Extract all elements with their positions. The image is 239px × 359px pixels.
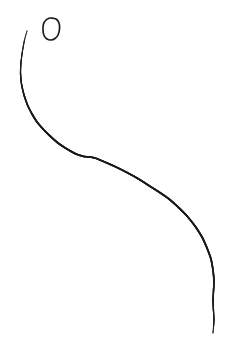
paper-background	[0, 0, 239, 359]
sketch-canvas: Hand-drawn line sketch ink-pen-on-paper …	[0, 0, 239, 359]
sketch-artwork	[0, 0, 239, 359]
